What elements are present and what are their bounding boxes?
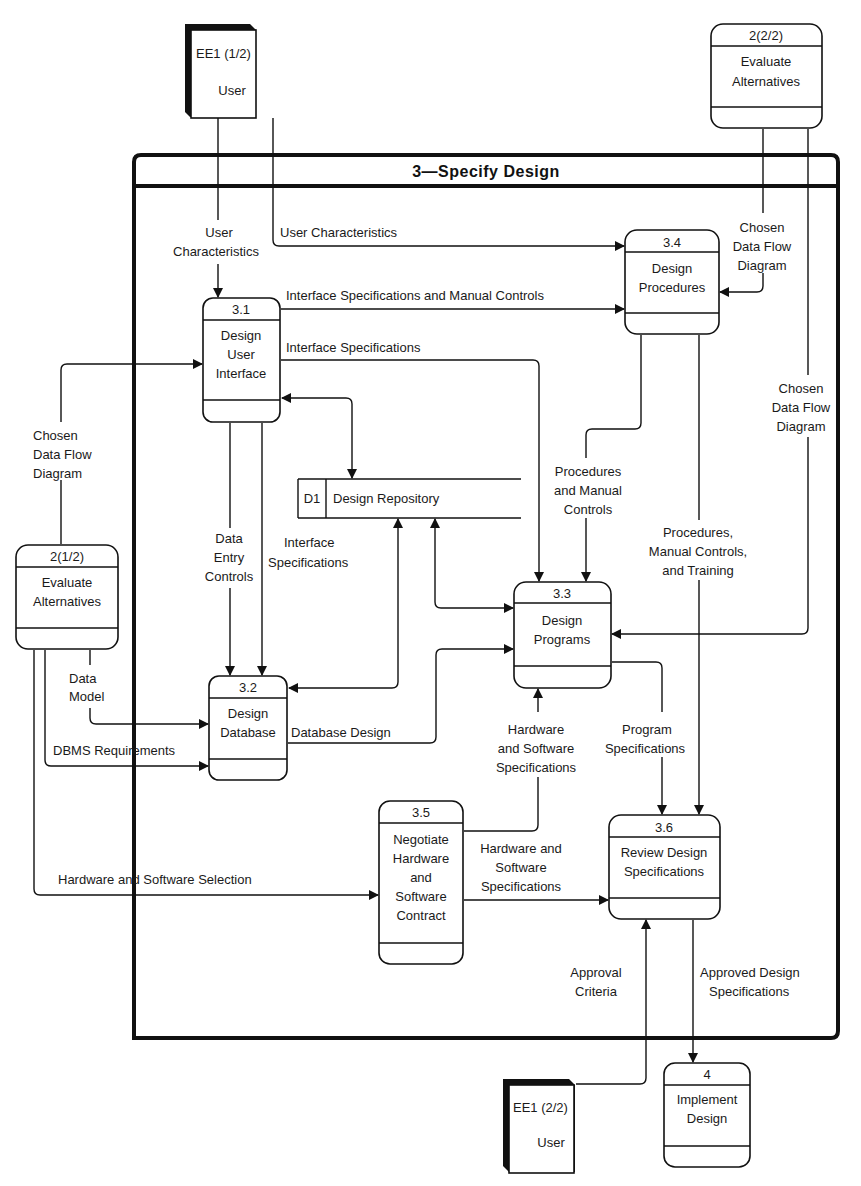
process-label: User (227, 347, 255, 362)
data-flow-diagram: 3—Specify Design EE1 (1/2) User EE1 (2/2… (0, 0, 861, 1186)
process-3-4-design-procedures[interactable]: 3.4 Design Procedures (625, 230, 719, 334)
flow-label: Data (69, 671, 97, 686)
flow-user-characteristics-to-3-4: User Characteristics (273, 118, 624, 246)
process-3-1-design-user-interface[interactable]: 3.1 Design User Interface (203, 298, 280, 422)
process-label: Alternatives (732, 74, 800, 89)
flow-label: Diagram (33, 466, 82, 481)
boundary-title: 3—Specify Design (412, 163, 560, 180)
flow-label: Approval (570, 965, 621, 980)
flow-label: Interface Specifications and Manual Cont… (286, 288, 544, 303)
process-id: 3.6 (655, 820, 673, 835)
process-label: Alternatives (33, 594, 101, 609)
process-label: Evaluate (42, 575, 93, 590)
entity-id: EE1 (1/2) (196, 46, 251, 61)
process-label: Software (395, 889, 446, 904)
process-3-5-negotiate-contract[interactable]: 3.5 Negotiate Hardware and Software Cont… (379, 801, 463, 964)
flow-procedures-manual-controls: Procedures and Manual Controls (554, 335, 641, 581)
process-label: Specifications (624, 864, 705, 879)
flow-label: Interface Specifications (286, 340, 421, 355)
flow-label: Procedures (555, 464, 622, 479)
flow-hw-sw-specs-to-3-3: Hardware and Software Specifications (464, 689, 577, 831)
process-label: Design (652, 261, 692, 276)
flow-label: Specifications (605, 741, 686, 756)
flow-label: Diagram (776, 419, 825, 434)
process-label: Design (687, 1111, 727, 1126)
process-label: Hardware (393, 851, 449, 866)
flow-approved-design-specifications: Approved Design Specifications (693, 920, 800, 1062)
process-id: 3.5 (412, 805, 430, 820)
flow-label: Procedures, (663, 525, 733, 540)
process-3-3-design-programs[interactable]: 3.3 Design Programs (514, 582, 611, 688)
process-label: Database (220, 725, 276, 740)
process-label: Implement (677, 1092, 738, 1107)
process-id: 3.4 (663, 235, 681, 250)
process-label: Procedures (639, 280, 706, 295)
process-2-2-evaluate-alternatives[interactable]: 2(2/2) Evaluate Alternatives (711, 24, 822, 128)
process-label: Programs (534, 632, 591, 647)
process-3-6-review-design-specifications[interactable]: 3.6 Review Design Specifications (609, 815, 720, 919)
flow-label: Hardware and Software Selection (58, 872, 252, 887)
process-label: Evaluate (741, 54, 792, 69)
external-entity-user-top[interactable]: EE1 (1/2) User (185, 24, 256, 118)
process-label: Interface (216, 366, 267, 381)
entity-name: User (537, 1135, 565, 1150)
flow-label: Hardware (508, 722, 564, 737)
flow-label: Entry (214, 550, 245, 565)
data-store-d1-design-repository[interactable]: D1 Design Repository (298, 479, 521, 518)
process-2-1-evaluate-alternatives[interactable]: 2(1/2) Evaluate Alternatives (16, 545, 118, 649)
external-entity-user-bottom[interactable]: EE1 (2/2) User (503, 1079, 575, 1173)
store-id: D1 (304, 491, 321, 506)
flow-label: Data Flow (733, 239, 792, 254)
flow-label: Chosen (33, 428, 78, 443)
flow-label: Controls (205, 569, 254, 584)
flow-chosen-dfd-to-3-1: Chosen Data Flow Diagram (33, 364, 202, 544)
flow-3-1-design-repository (282, 398, 352, 478)
process-label: Design (542, 613, 582, 628)
flow-label: Model (69, 689, 105, 704)
flow-label: User (205, 225, 233, 240)
process-label: Design (228, 706, 268, 721)
flow-label: Chosen (740, 220, 785, 235)
process-3-2-design-database[interactable]: 3.2 Design Database (209, 676, 287, 780)
flow-label: Specifications (481, 879, 562, 894)
process-label: and (410, 870, 432, 885)
entity-id: EE1 (2/2) (513, 1100, 568, 1115)
process-id: 3.1 (232, 302, 250, 317)
flow-label: Approved Design (700, 965, 800, 980)
flow-label: Database Design (291, 725, 391, 740)
flow-label: Specifications (709, 984, 790, 999)
flow-interface-specs-to-3-2: Interface Specifications (262, 423, 349, 675)
flow-label: Data (215, 531, 243, 546)
process-id: 4 (703, 1067, 710, 1082)
flow-label: Hardware and (480, 841, 562, 856)
process-id: 2(2/2) (749, 28, 783, 43)
flow-label: Data Flow (33, 447, 92, 462)
process-id: 2(1/2) (50, 549, 84, 564)
flow-label: Program (622, 722, 672, 737)
flow-label: Diagram (737, 258, 786, 273)
process-id: 3.2 (239, 680, 257, 695)
flow-label: DBMS Requirements (53, 743, 176, 758)
flow-user-characteristics-to-3-1: User Characteristics (173, 118, 259, 297)
process-label: Contract (396, 908, 446, 923)
flow-program-specifications: Program Specifications (605, 662, 686, 814)
flow-approval-criteria: Approval Criteria (570, 920, 646, 1084)
flow-label: Interface (284, 535, 335, 550)
flow-label: User Characteristics (280, 225, 398, 240)
flow-dbms-requirements: DBMS Requirements (45, 650, 208, 766)
flow-design-repository-3-3 (435, 519, 513, 608)
flow-label: Specifications (496, 760, 577, 775)
flow-label: Characteristics (173, 244, 259, 259)
process-id: 3.3 (553, 586, 571, 601)
store-name: Design Repository (333, 491, 440, 506)
flow-label: Manual Controls, (649, 544, 747, 559)
process-4-implement-design[interactable]: 4 Implement Design (664, 1063, 750, 1167)
flow-label: and Software (498, 741, 575, 756)
flow-hw-sw-specs-to-3-6: Hardware and Software Specifications (464, 841, 608, 900)
flow-interface-specs-manual-controls: Interface Specifications and Manual Cont… (281, 288, 624, 309)
process-label: Negotiate (393, 832, 449, 847)
flow-label: Software (495, 860, 546, 875)
flow-label: Criteria (575, 984, 618, 999)
flow-hw-sw-selection: Hardware and Software Selection (34, 650, 378, 895)
flow-data-entry-controls: Data Entry Controls (205, 423, 254, 675)
